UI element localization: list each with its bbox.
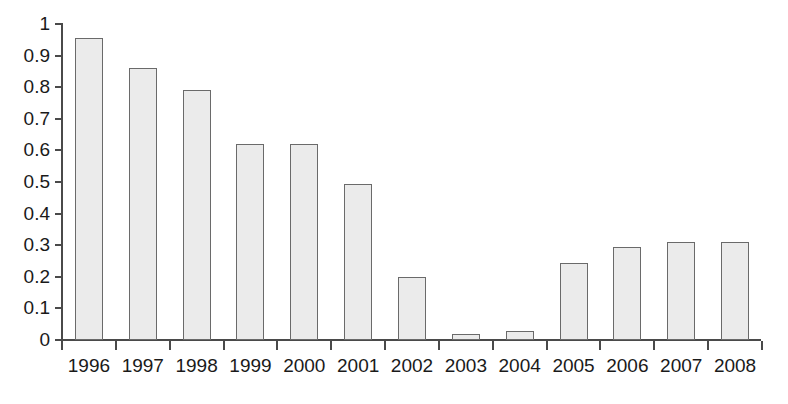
x-axis-tick <box>492 341 494 350</box>
y-axis-tick-label: 0.1 <box>0 298 50 317</box>
bar <box>506 331 534 340</box>
bar <box>398 277 426 340</box>
x-axis-tick <box>115 341 117 350</box>
bars-layer <box>62 24 762 340</box>
x-axis-tick <box>169 341 171 350</box>
x-axis-tick <box>384 341 386 350</box>
y-axis-tick-label: 0 <box>0 330 50 349</box>
bar <box>75 38 103 340</box>
bar <box>560 263 588 340</box>
x-axis-tick <box>276 341 278 350</box>
bar-chart: 10.90.80.70.60.50.40.30.20.10 1996199719… <box>0 0 788 404</box>
x-axis-tick <box>761 341 763 350</box>
bar <box>344 184 372 340</box>
bar <box>721 242 749 340</box>
x-axis-tick <box>707 341 709 350</box>
y-axis-tick-label: 0.4 <box>0 204 50 223</box>
bar <box>183 90 211 340</box>
x-axis-tick <box>330 341 332 350</box>
x-axis-tick <box>61 341 63 350</box>
x-axis-tick <box>653 341 655 350</box>
bar <box>452 334 480 340</box>
y-axis-tick-label: 1 <box>0 14 50 33</box>
bar <box>129 68 157 340</box>
x-axis-tick <box>438 341 440 350</box>
y-axis-tick-label: 0.9 <box>0 46 50 65</box>
y-axis-tick-label: 0.6 <box>0 140 50 159</box>
x-axis-tick <box>546 341 548 350</box>
y-axis-tick-label: 0.5 <box>0 172 50 191</box>
bar <box>236 144 264 340</box>
x-axis-tick-label: 2008 <box>700 355 770 377</box>
y-axis-tick-label: 0.2 <box>0 267 50 286</box>
x-axis-tick <box>223 341 225 350</box>
bar <box>613 247 641 340</box>
y-axis-tick-label: 0.3 <box>0 235 50 254</box>
y-axis-tick-label: 0.8 <box>0 77 50 96</box>
bar <box>667 242 695 340</box>
bar <box>290 144 318 340</box>
x-axis-tick <box>599 341 601 350</box>
y-axis-tick-label: 0.7 <box>0 109 50 128</box>
